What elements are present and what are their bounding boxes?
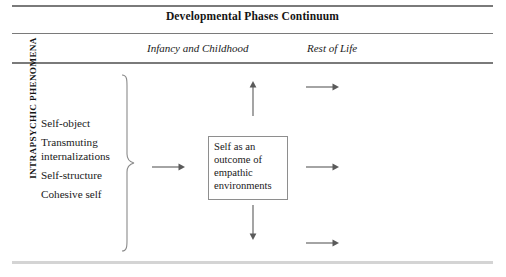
column-header-rest-of-life: Rest of Life <box>307 42 357 54</box>
arrow-right-bottom-icon <box>306 236 340 250</box>
center-concept-text: Self as an outcome of empathic environme… <box>214 141 272 191</box>
table-rule-top <box>12 5 493 7</box>
figure-title: Developmental Phases Continuum <box>12 10 493 22</box>
arrow-right-middle-right-icon <box>306 160 340 174</box>
row-label-intrapsychic-phenomena: INTRAPSYCHIC PHENOMENA <box>28 23 38 193</box>
arrow-down-bottom-icon <box>246 205 260 241</box>
figure-canvas: Developmental Phases Continuum Infancy a… <box>0 0 506 277</box>
arrow-right-top-icon <box>306 80 340 94</box>
table-rule-bottom <box>12 62 493 64</box>
center-concept-box: Self as an outcome of empathic environme… <box>208 136 288 200</box>
column-header-infancy-and-childhood: Infancy and Childhood <box>147 42 248 54</box>
table-rule-middle <box>12 33 493 34</box>
arrow-right-middle-left-icon <box>152 160 186 174</box>
arrow-up-top-icon <box>246 80 260 116</box>
right-curly-brace-icon <box>120 74 138 252</box>
table-rule-footer <box>12 261 493 264</box>
